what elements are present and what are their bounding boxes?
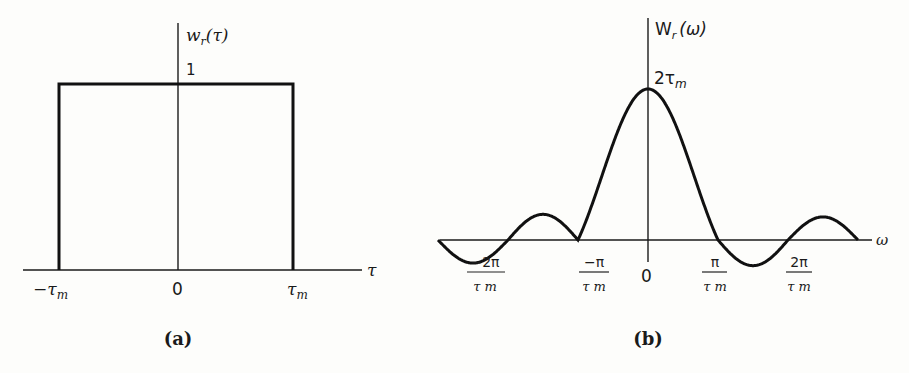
xtick-tau-m: τm bbox=[287, 279, 308, 302]
svg-text:2π: 2π bbox=[790, 254, 808, 270]
xtick-pi: π τ m bbox=[702, 254, 727, 294]
svg-text:τ m: τ m bbox=[703, 279, 727, 294]
panel-b: Wr(ω) 2τm ω 0 −2π τ m −π τ m π τ m 2π τ … bbox=[438, 18, 888, 349]
ytick-one: 1 bbox=[186, 61, 196, 79]
xtick-neg-pi: −π τ m bbox=[579, 254, 609, 294]
figure: wr(τ) 1 τ −τm 0 τm (a) Wr(ω) 2τm ω 0 −2π… bbox=[0, 0, 909, 373]
peak-label: 2τm bbox=[654, 68, 687, 91]
svg-text:−π: −π bbox=[584, 254, 605, 270]
xtick-zero: 0 bbox=[172, 279, 183, 299]
caption-b: (b) bbox=[633, 328, 663, 349]
xtick-neg-tau-m: −τm bbox=[33, 279, 68, 302]
panel-a: wr(τ) 1 τ −τm 0 τm (a) bbox=[23, 23, 377, 349]
caption-a: (a) bbox=[164, 328, 193, 349]
svg-text:τ m: τ m bbox=[582, 279, 606, 294]
ylabel-b: Wr(ω) bbox=[655, 19, 707, 42]
svg-text:π: π bbox=[711, 254, 720, 270]
ylabel-a: wr(τ) bbox=[186, 25, 229, 48]
rect-window-curve bbox=[59, 84, 293, 270]
xlabel-omega: ω bbox=[876, 231, 888, 249]
svg-text:τ m: τ m bbox=[473, 279, 497, 294]
xtick-zero-b: 0 bbox=[641, 266, 652, 286]
xtick-2pi: 2π τ m bbox=[786, 254, 812, 294]
svg-text:−2π: −2π bbox=[470, 254, 500, 270]
xtick-neg-2pi: −2π τ m bbox=[467, 254, 505, 294]
xlabel-tau: τ bbox=[367, 260, 377, 280]
svg-text:τ m: τ m bbox=[787, 279, 811, 294]
